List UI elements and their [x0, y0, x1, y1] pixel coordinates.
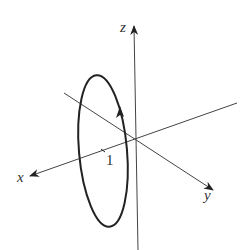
y-axis-label: y [204, 188, 211, 203]
circle-direction-arrow-icon [116, 106, 124, 118]
radius-label: 1 [106, 153, 114, 168]
z-axis-label: z [120, 20, 126, 35]
x-axis [30, 103, 237, 176]
axes-and-circle-svg [0, 0, 250, 250]
y-axis [64, 93, 213, 190]
diagram-canvas: z x y 1 [0, 0, 250, 250]
x-axis-label: x [17, 170, 24, 185]
